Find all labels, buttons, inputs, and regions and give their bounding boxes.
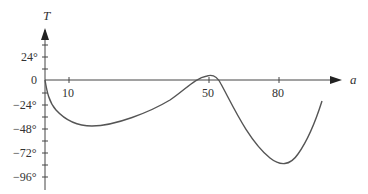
origin-label: 0 bbox=[31, 73, 37, 88]
y-tick-label: −72° bbox=[13, 146, 37, 161]
x-tick-label: 80 bbox=[272, 86, 284, 101]
x-tick-label: 10 bbox=[62, 86, 74, 101]
y-axis-arrow-icon bbox=[41, 28, 49, 40]
y-tick-label: −96° bbox=[13, 170, 37, 185]
x-axis-arrow-icon bbox=[330, 76, 342, 84]
chart-canvas bbox=[0, 0, 368, 194]
x-axis-label: a bbox=[350, 72, 357, 88]
y-axis-label: T bbox=[43, 8, 50, 24]
y-tick-label: −48° bbox=[13, 122, 37, 137]
y-tick-label: 24° bbox=[21, 50, 38, 65]
y-tick-label: −24° bbox=[13, 98, 37, 113]
x-tick-label: 50 bbox=[202, 86, 214, 101]
